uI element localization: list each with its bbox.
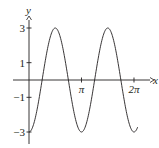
y-tick-label: −3 (13, 126, 25, 138)
y-tick-label: −1 (13, 91, 25, 103)
x-tick-label: 2π (128, 83, 140, 95)
y-tick-label: 3 (20, 22, 26, 34)
sinusoid-chart: y x 31−1−3 π2π (0, 0, 159, 148)
y-axis-label: y (25, 4, 31, 16)
y-axis-arrow-icon (27, 16, 32, 20)
y-tick-label: 1 (20, 57, 26, 69)
x-axis-label: x (152, 74, 158, 86)
x-tick-label: π (79, 83, 85, 95)
